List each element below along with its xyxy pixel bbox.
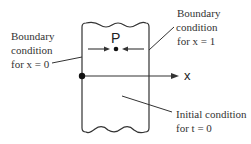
leader-right-boundary (149, 27, 174, 50)
initial-condition-label-line1: Initial condition (176, 107, 247, 121)
x-axis-arrowhead (171, 73, 179, 79)
point-p-dot (114, 47, 119, 52)
origin-dot (79, 73, 85, 79)
initial-condition-label-line2: for t = 0 (176, 121, 212, 135)
boundary-condition-diagram: P x Boundary condition for x = 0 Boundar… (0, 0, 251, 144)
x-axis-label: x (184, 69, 191, 82)
right-boundary-label-line3: for x = 1 (177, 34, 215, 48)
left-arrowhead (104, 47, 110, 52)
left-boundary-label-line3: for x = 0 (11, 57, 49, 71)
left-boundary-label-line1: Boundary (11, 29, 54, 43)
right-boundary-label-line1: Boundary (177, 6, 220, 20)
leader-initial-condition (122, 96, 172, 112)
right-boundary-label-line2: condition (176, 20, 218, 34)
left-boundary-label-line2: condition (11, 43, 53, 57)
right-arrowhead (122, 47, 128, 52)
leader-left-boundary (52, 57, 82, 63)
point-p-label: P (111, 31, 120, 45)
